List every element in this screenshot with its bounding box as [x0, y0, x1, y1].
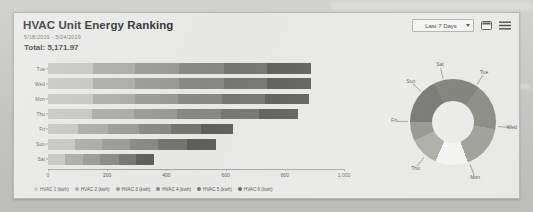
- bar-row[interactable]: [48, 124, 233, 135]
- bar-row[interactable]: [48, 109, 298, 120]
- bar-segment[interactable]: [178, 94, 222, 105]
- bar-segment[interactable]: [78, 124, 108, 135]
- header-controls: Last 7 Days: [412, 19, 512, 32]
- bar-segment[interactable]: [48, 63, 93, 74]
- bar-row[interactable]: [48, 78, 311, 89]
- legend-swatch: [156, 187, 160, 191]
- bar-segment[interactable]: [135, 94, 178, 105]
- bar-segment[interactable]: [134, 109, 177, 120]
- legend-item[interactable]: HVAC 1 (kwh): [34, 187, 69, 192]
- x-axis-label: 200: [103, 172, 111, 178]
- bar-segment[interactable]: [48, 78, 93, 89]
- bar-segment[interactable]: [136, 154, 154, 165]
- y-axis-label: Sat: [37, 156, 45, 162]
- bar-segment[interactable]: [102, 139, 130, 150]
- legend-item[interactable]: HVAC 4 (kwh): [156, 187, 191, 192]
- time-range-select-value: Last 7 Days: [416, 23, 466, 29]
- bar-segment[interactable]: [75, 139, 102, 150]
- bar-segment[interactable]: [135, 63, 179, 74]
- bar-segment[interactable]: [177, 109, 221, 120]
- bar-segment[interactable]: [179, 63, 224, 74]
- bar-segment[interactable]: [83, 154, 101, 165]
- bar-segment[interactable]: [48, 109, 92, 120]
- y-axis-label: Mon: [35, 96, 45, 102]
- bar-segment[interactable]: [224, 63, 267, 74]
- legend-item[interactable]: HVAC 5 (kwh): [197, 187, 232, 192]
- bar-row[interactable]: [48, 63, 311, 74]
- calendar-icon[interactable]: [479, 20, 493, 32]
- legend-label: HVAC 5 (kwh): [203, 187, 232, 192]
- donut-leader-line: [413, 83, 422, 91]
- legend-swatch: [116, 187, 120, 191]
- legend-label: HVAC 3 (kwh): [122, 187, 151, 192]
- y-axis-label: Wed: [35, 81, 45, 87]
- bar-segment[interactable]: [93, 78, 135, 89]
- x-axis-tick: [226, 169, 227, 171]
- bar-segment[interactable]: [259, 109, 299, 120]
- bar-segment[interactable]: [93, 63, 135, 74]
- legend-swatch: [34, 187, 38, 191]
- bar-segment[interactable]: [221, 109, 259, 120]
- bar-segment[interactable]: [48, 154, 65, 165]
- bar-segment[interactable]: [92, 109, 134, 120]
- bar-segment[interactable]: [108, 124, 139, 135]
- bar-segment[interactable]: [224, 78, 267, 89]
- donut-leader-line: [476, 75, 483, 85]
- date-range-label: 5/18/2019 - 5/24/2019: [24, 34, 81, 40]
- chart-legend: HVAC 1 (kwh)HVAC 2 (kwh)HVAC 3 (kwh)HVAC…: [34, 183, 334, 195]
- x-axis-label: 800: [281, 172, 289, 178]
- bar-segment[interactable]: [267, 63, 311, 74]
- donut-slice-label: Wed: [507, 124, 517, 130]
- time-range-select[interactable]: Last 7 Days: [412, 19, 474, 32]
- bar-segment[interactable]: [222, 94, 265, 105]
- background-artifact: [330, 2, 530, 10]
- x-axis-tick: [344, 169, 345, 171]
- bar-segment[interactable]: [119, 154, 136, 165]
- bar-segment[interactable]: [267, 78, 311, 89]
- hamburger-menu-icon[interactable]: [498, 20, 512, 32]
- bar-segment[interactable]: [48, 94, 93, 105]
- bar-segment[interactable]: [265, 94, 309, 105]
- donut-chart: TueWedMonThuFriSunSat: [369, 61, 519, 183]
- bar-segment[interactable]: [187, 139, 216, 150]
- bar-segment[interactable]: [100, 154, 118, 165]
- donut-hole: [410, 79, 496, 165]
- bar-segment[interactable]: [158, 139, 186, 150]
- bar-segment[interactable]: [179, 78, 224, 89]
- x-axis-label: 0: [47, 172, 50, 178]
- x-axis-line: [48, 169, 344, 170]
- x-axis-label: 400: [162, 172, 170, 178]
- legend-swatch: [238, 187, 242, 191]
- donut-slice-label: Fri: [391, 117, 397, 123]
- bar-row[interactable]: [48, 154, 154, 165]
- legend-swatch: [197, 187, 201, 191]
- chevron-down-icon: [466, 24, 470, 27]
- x-axis-tick: [48, 169, 49, 171]
- donut-slice-label: Tue: [480, 69, 488, 75]
- stacked-bar-chart: TueWedMonThuFriSunSat 02004006008001,000: [14, 59, 364, 179]
- donut-leader-line: [397, 120, 408, 121]
- bar-plot-area: TueWedMonThuFriSunSat: [48, 61, 344, 167]
- legend-item[interactable]: HVAC 2 (kwh): [75, 187, 110, 192]
- y-axis-label: Fri: [39, 126, 45, 132]
- bar-row[interactable]: [48, 139, 216, 150]
- bar-segment[interactable]: [171, 124, 201, 135]
- bar-row[interactable]: [48, 94, 309, 105]
- y-axis-label: Thu: [36, 111, 45, 117]
- donut-slice-label: Sun: [406, 78, 415, 84]
- bar-segment[interactable]: [48, 139, 75, 150]
- bar-segment[interactable]: [201, 124, 233, 135]
- bar-segment[interactable]: [65, 154, 82, 165]
- bar-segment[interactable]: [93, 94, 135, 105]
- legend-item[interactable]: HVAC 6 (kwh): [238, 187, 273, 192]
- bar-segment[interactable]: [48, 124, 78, 135]
- legend-item[interactable]: HVAC 3 (kwh): [116, 187, 151, 192]
- total-label: Total: 5,171.97: [24, 43, 79, 52]
- legend-swatch: [75, 187, 79, 191]
- bar-segment[interactable]: [139, 124, 171, 135]
- legend-label: HVAC 1 (kwh): [40, 187, 69, 192]
- legend-label: HVAC 4 (kwh): [162, 187, 191, 192]
- bar-segment[interactable]: [130, 139, 159, 150]
- bar-segment[interactable]: [135, 78, 179, 89]
- y-axis-label: Tue: [37, 66, 45, 72]
